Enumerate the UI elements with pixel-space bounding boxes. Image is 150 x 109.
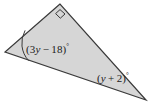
right-angle-operator: +: [108, 72, 114, 84]
right-angle-label: (y + 2)°: [97, 71, 129, 84]
right-angle-degree-symbol: °: [126, 71, 129, 79]
right-angle-variable: y: [101, 72, 106, 84]
left-angle-operator: −: [43, 43, 49, 55]
left-angle-label: (3y − 18)°: [26, 42, 69, 55]
left-angle-variable: y: [35, 43, 40, 55]
left-angle-degree-symbol: °: [66, 42, 69, 50]
left-angle-constant: 18: [51, 43, 62, 55]
geometry-figure: (3y − 18)° (y + 2)°: [0, 0, 150, 109]
triangle-diagram-svg: [0, 0, 150, 109]
